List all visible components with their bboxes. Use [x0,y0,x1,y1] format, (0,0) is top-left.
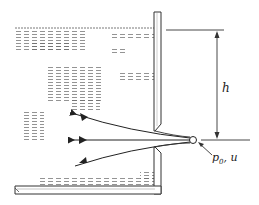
pressure-symbol: p [212,151,219,164]
pressure-leader [198,142,212,155]
arrow-center-icon [79,136,87,144]
height-dimension [215,31,220,139]
orifice-flow-diagram [0,0,259,205]
dimension-arrow-down-icon [215,132,220,139]
streamlines [73,114,190,166]
streamline-lower [75,142,190,166]
height-label: h [222,82,230,94]
measurement-point-icon [190,137,197,144]
dimension-arrow-up-icon [215,31,220,38]
arrow-upper-icon [80,113,88,121]
tank-bottom [15,186,161,194]
pressure-velocity-label: p0, u [212,152,238,166]
arrow-lower-icon [79,157,87,163]
velocity-symbol: u [231,151,238,164]
tank-wall-upper [154,12,161,131]
streamline-arrows [79,113,88,163]
jet [155,131,190,147]
label-separator: , [224,151,231,164]
